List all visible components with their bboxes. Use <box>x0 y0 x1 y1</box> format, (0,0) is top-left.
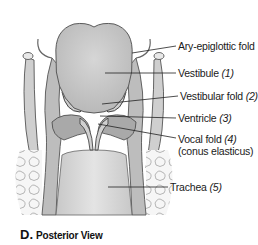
figure-caption: D. Posterior View <box>20 227 103 242</box>
vocal-folds <box>80 118 108 150</box>
label-vestibule: Vestibule (1) <box>178 67 234 79</box>
trachea-shape <box>56 150 132 215</box>
label-ventricle: Ventricle (3) <box>178 112 231 124</box>
label-vestibular-fold: Vestibular fold (2) <box>180 90 258 102</box>
vocal-muscles <box>52 115 136 140</box>
view-letter: D. <box>20 227 33 242</box>
label-trachea: Trachea (5) <box>170 181 222 193</box>
label-ary-epiglottic-fold: Ary-epiglottic fold <box>178 40 255 52</box>
vestibule-shape <box>56 23 132 113</box>
view-title: Posterior View <box>36 230 103 241</box>
label-vocal-fold: Vocal fold (4) (conus elasticus) <box>178 133 253 157</box>
larynx-posterior-view-figure: Ary-epiglottic fold Vestibule (1) Vestib… <box>0 0 258 245</box>
